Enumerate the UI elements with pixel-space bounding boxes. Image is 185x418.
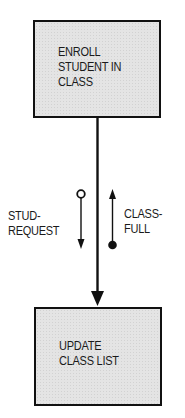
module-enroll-student-in-class[interactable]: ENROLL STUDENT IN CLASS [33,20,161,118]
structure-chart: ENROLL STUDENT IN CLASS STUD- REQUEST CL… [0,0,185,418]
couple-label-stud-request: STUD- REQUEST [8,209,59,239]
filled-circle-icon [108,241,117,250]
module-label: UPDATE CLASS LIST [59,339,119,369]
arrow-up-icon [109,189,116,199]
arrow-down-icon [91,291,104,306]
module-update-class-list[interactable]: UPDATE CLASS LIST [34,307,162,406]
couple-label-class-full: CLASS- FULL [124,207,162,237]
module-label: ENROLL STUDENT IN CLASS [58,45,121,90]
data-couple-stud-request [77,190,85,249]
open-circle-icon [77,190,85,198]
control-flag-class-full [108,189,117,249]
arrow-down-icon [78,239,85,249]
